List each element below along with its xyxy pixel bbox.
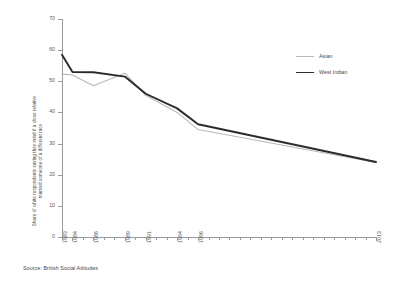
legend: Asian West Indian [296, 48, 392, 80]
x-axis-tick [345, 237, 346, 240]
x-axis-tick [271, 237, 272, 240]
x-axis-tick: 1994 [177, 237, 178, 241]
legend-swatch-asian [296, 56, 314, 57]
x-axis-tick [324, 237, 325, 240]
x-axis-tick [334, 237, 335, 240]
x-axis-tick: 1989 [125, 237, 126, 241]
y-axis-tick-label: 50 [49, 77, 55, 83]
x-axis-tick [292, 237, 293, 240]
x-axis-tick [240, 237, 241, 240]
x-axis-tick [313, 237, 314, 240]
legend-label-asian: Asian [319, 53, 333, 59]
x-axis-tick [355, 237, 356, 240]
y-axis-tick-label: 10 [49, 202, 55, 208]
x-axis-tick [135, 237, 136, 240]
x-axis-tick [250, 237, 251, 240]
x-axis-tick-label: 2013 [376, 231, 382, 243]
y-axis-tick-label: 70 [49, 15, 55, 21]
x-axis-tick [303, 237, 304, 240]
x-axis-tick [282, 237, 283, 240]
legend-label-west-indian: West Indian [319, 69, 347, 75]
y-axis-tick-label: 60 [49, 46, 55, 52]
legend-item-west-indian[interactable]: West Indian [296, 64, 392, 80]
x-axis-tick: 1986 [93, 237, 94, 241]
chart-page: Share of white respondents saying they m… [0, 0, 399, 290]
y-axis-tick-label: 20 [49, 171, 55, 177]
x-axis-tick: 1996 [198, 237, 199, 241]
y-axis-tick-label: 30 [49, 140, 55, 146]
x-axis-tick: 1983 [62, 237, 63, 241]
x-axis-tick: 1984 [72, 237, 73, 241]
x-axis-tick [83, 237, 84, 240]
legend-swatch-west-indian [296, 72, 314, 73]
source-note: Source: British Social Attitudes [23, 265, 98, 271]
x-axis-tick [219, 237, 220, 240]
x-axis-tick [104, 237, 105, 240]
x-axis-tick [366, 237, 367, 240]
legend-item-asian[interactable]: Asian [296, 48, 392, 64]
x-axis-tick [261, 237, 262, 240]
y-axis-label-line-2: married someone of a different race [38, 124, 44, 198]
y-axis-label: Share of white respondents saying they m… [25, 71, 51, 251]
x-axis-tick: 2013 [376, 237, 377, 241]
y-axis-tick-label: 40 [49, 108, 55, 114]
x-axis-tick [114, 237, 115, 240]
y-axis-tick-label: 0 [52, 233, 55, 239]
x-axis-tick: 1991 [146, 237, 147, 241]
x-axis-tick [156, 237, 157, 240]
x-axis-tick [188, 237, 189, 240]
x-axis-tick [167, 237, 168, 240]
x-axis-tick [229, 237, 230, 240]
x-axis-tick [209, 237, 210, 240]
series-line-asian [62, 73, 376, 162]
